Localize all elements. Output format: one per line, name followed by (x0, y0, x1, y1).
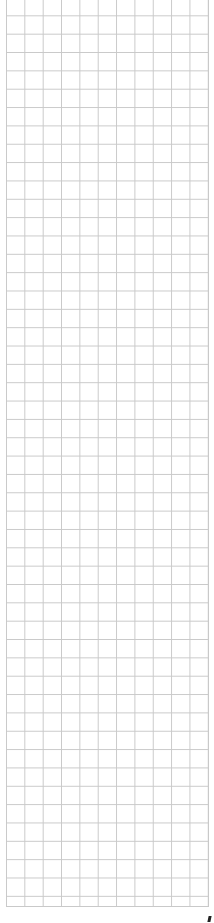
corner-mark (207, 916, 211, 922)
graph-paper-grid (6, 0, 209, 907)
